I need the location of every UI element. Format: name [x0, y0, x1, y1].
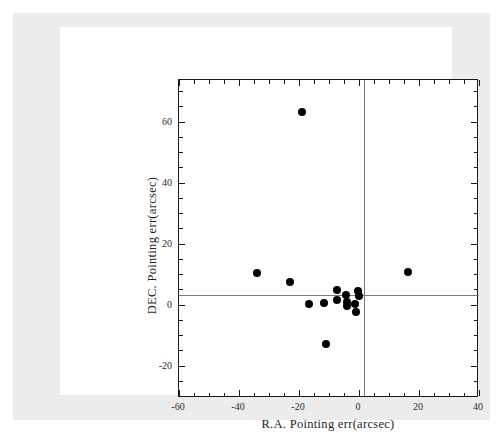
y-axis-minor-tick	[179, 137, 183, 138]
x-axis-minor-tick	[314, 393, 315, 397]
x-axis-minor-tick	[434, 393, 435, 397]
x-axis-minor-tick	[194, 80, 195, 84]
x-axis-major-tick	[419, 390, 420, 396]
y-axis-minor-tick	[179, 381, 183, 382]
x-axis-minor-tick	[269, 393, 270, 397]
x-axis-minor-tick	[284, 393, 285, 397]
y-axis-minor-tick	[179, 213, 183, 214]
x-axis-minor-tick	[404, 80, 405, 84]
y-axis-minor-tick	[179, 396, 183, 397]
y-axis-minor-tick	[179, 152, 183, 153]
x-axis-minor-tick	[434, 80, 435, 84]
figure-card: -60-40-2002040 -200204060 R.A. Pointing …	[60, 27, 452, 395]
y-axis-minor-tick	[179, 167, 183, 168]
data-point	[343, 302, 351, 310]
x-axis-major-tick	[179, 390, 180, 396]
x-axis-minor-tick	[329, 80, 330, 84]
y-axis-minor-tick	[474, 350, 478, 351]
y-axis-minor-tick	[474, 228, 478, 229]
data-point	[286, 278, 294, 286]
x-axis-minor-tick	[449, 80, 450, 84]
data-point	[320, 299, 328, 307]
y-axis-minor-tick	[179, 228, 183, 229]
x-axis-minor-tick	[344, 393, 345, 397]
y-axis-minor-tick	[474, 335, 478, 336]
data-point	[333, 286, 341, 294]
y-axis-minor-tick	[179, 274, 183, 275]
x-axis-major-tick	[479, 80, 480, 86]
x-tick-label: -40	[231, 401, 244, 412]
x-axis-minor-tick	[449, 393, 450, 397]
y-axis-major-tick	[471, 366, 477, 367]
y-axis-minor-tick	[179, 259, 183, 260]
y-axis-minor-tick	[474, 91, 478, 92]
x-axis-minor-tick	[329, 393, 330, 397]
data-point	[352, 308, 360, 316]
y-axis-minor-tick	[474, 320, 478, 321]
x-axis-minor-tick	[224, 80, 225, 84]
y-axis-minor-tick	[179, 335, 183, 336]
y-axis-minor-tick	[474, 152, 478, 153]
x-tick-label: -20	[291, 401, 304, 412]
x-axis-minor-tick	[374, 80, 375, 84]
y-axis-major-tick	[471, 305, 477, 306]
y-axis-minor-tick	[474, 198, 478, 199]
data-point	[253, 269, 261, 277]
x-axis-major-tick	[239, 390, 240, 396]
y-axis-minor-tick	[179, 320, 183, 321]
x-axis-major-tick	[359, 390, 360, 396]
x-axis-minor-tick	[194, 393, 195, 397]
y-axis-minor-tick	[474, 381, 478, 382]
y-axis-minor-tick	[474, 106, 478, 107]
data-point	[298, 108, 306, 116]
x-axis-major-tick	[359, 80, 360, 86]
x-axis-minor-tick	[209, 80, 210, 84]
y-axis-major-tick	[179, 305, 185, 306]
x-axis-minor-tick	[374, 393, 375, 397]
data-point	[351, 300, 359, 308]
data-point	[305, 300, 313, 308]
x-axis-minor-tick	[389, 80, 390, 84]
x-axis-minor-tick	[224, 393, 225, 397]
x-axis-minor-tick	[464, 393, 465, 397]
page-root: -60-40-2002040 -200204060 R.A. Pointing …	[0, 0, 503, 433]
y-axis-major-tick	[179, 244, 185, 245]
x-axis-minor-tick	[314, 80, 315, 84]
x-axis-major-tick	[299, 390, 300, 396]
y-axis-minor-tick	[474, 167, 478, 168]
x-axis-minor-tick	[254, 393, 255, 397]
y-axis-minor-tick	[179, 91, 183, 92]
data-point	[354, 287, 362, 295]
x-axis-minor-tick	[209, 393, 210, 397]
x-axis-label: R.A. Pointing err(arcsec)	[178, 417, 478, 432]
data-point	[333, 296, 341, 304]
y-axis-major-tick	[471, 244, 477, 245]
x-axis-minor-tick	[464, 80, 465, 84]
data-point	[404, 268, 412, 276]
y-axis-major-tick	[179, 122, 185, 123]
y-axis-major-tick	[179, 366, 185, 367]
x-axis-minor-tick	[344, 80, 345, 84]
y-axis-minor-tick	[474, 289, 478, 290]
x-axis-minor-tick	[404, 393, 405, 397]
x-axis-major-tick	[419, 80, 420, 86]
y-axis-minor-tick	[474, 259, 478, 260]
zero-line-horizontal	[179, 295, 479, 296]
x-tick-label: 40	[473, 401, 483, 412]
x-axis-minor-tick	[284, 80, 285, 84]
x-tick-label: -60	[171, 401, 184, 412]
zero-line-vertical	[364, 80, 365, 396]
x-axis-major-tick	[239, 80, 240, 86]
y-axis-major-tick	[471, 183, 477, 184]
y-axis-major-tick	[471, 122, 477, 123]
x-axis-minor-tick	[254, 80, 255, 84]
x-axis-major-tick	[479, 390, 480, 396]
x-tick-label: 0	[356, 401, 361, 412]
y-axis-minor-tick	[179, 289, 183, 290]
x-axis-major-tick	[299, 80, 300, 86]
y-axis-major-tick	[179, 183, 185, 184]
x-axis-major-tick	[179, 80, 180, 86]
scatter-plot-area	[178, 79, 478, 397]
y-axis-minor-tick	[474, 274, 478, 275]
data-point	[322, 340, 330, 348]
